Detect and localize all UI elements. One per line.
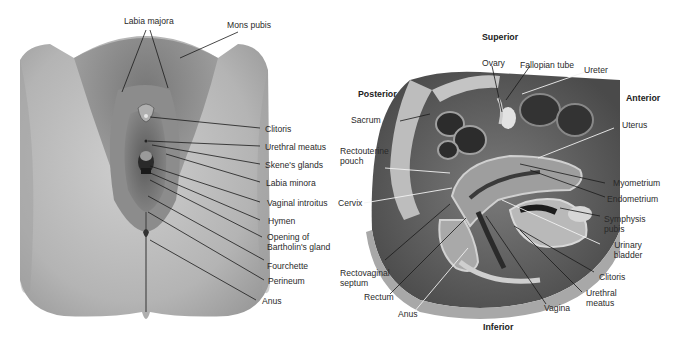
orientation-superior: Superior	[482, 32, 518, 42]
label-anus: Anus	[262, 296, 282, 306]
label-sacrum: Sacrum	[351, 115, 381, 125]
label-vaginal-introitus: Vaginal introitus	[267, 198, 328, 208]
label-anus-sagittal: Anus	[398, 309, 418, 319]
label-myometrium: Myometrium	[613, 178, 660, 188]
label-fallopian-tube: Fallopian tube	[520, 60, 574, 70]
label-opening-bartholins-gland: Opening of Bartholin's gland	[267, 232, 347, 252]
label-perineum: Perineum	[268, 276, 305, 286]
label-labia-minora: Labia minora	[266, 178, 316, 188]
label-fourchette: Fourchette	[267, 261, 308, 271]
label-labia-majora: Labia majora	[124, 16, 174, 26]
label-symphysis-pubis: Symphysis pubis	[604, 214, 654, 234]
orientation-posterior: Posterior	[358, 89, 397, 99]
label-vagina: Vagina	[544, 303, 570, 313]
label-mons-pubis: Mons pubis	[227, 20, 271, 30]
label-urinary-bladder: Urinary bladder	[606, 240, 650, 260]
orientation-anterior: Anterior	[626, 93, 660, 103]
label-uterus: Uterus	[622, 120, 647, 130]
label-rectum: Rectum	[364, 292, 394, 302]
label-clitoris: Clitoris	[265, 124, 291, 134]
sagittal-pelvis-illustration	[0, 0, 676, 346]
label-ureter: Ureter	[584, 65, 608, 75]
label-rectouterine-pouch: Rectouterine pouch	[340, 146, 400, 166]
label-urethral-meatus-sagittal: Urethral meatus	[586, 288, 626, 308]
label-ovary: Ovary	[482, 58, 505, 68]
orientation-inferior: Inferior	[483, 322, 513, 332]
label-hymen: Hymen	[268, 216, 295, 226]
label-skenes-glands: Skene's glands	[265, 160, 323, 170]
label-urethral-meatus: Urethral meatus	[265, 142, 326, 152]
anatomy-figure: Labia majora Mons pubis Clitoris Urethra…	[0, 0, 676, 346]
label-endometrium: Endometrium	[607, 194, 658, 204]
label-cervix: Cervix	[338, 198, 362, 208]
label-clitoris-sagittal: Clitoris	[599, 272, 625, 282]
label-rectovaginal-septum: Rectovaginal septum	[340, 268, 400, 288]
